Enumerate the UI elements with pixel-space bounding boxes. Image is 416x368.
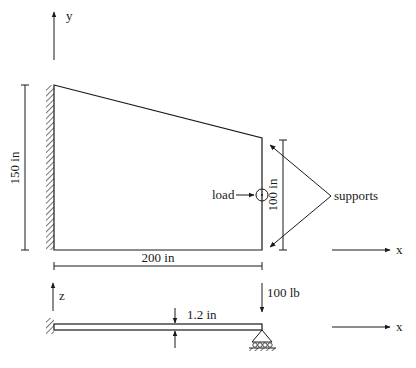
tapered-plate: [54, 85, 262, 250]
height-dimension: 150 in: [7, 85, 29, 250]
plate-diagram: y 150 in 200 in 100 in load supports: [0, 0, 416, 368]
supports-label: supports: [334, 188, 378, 203]
thickness-dimension: 1.2 in: [175, 307, 217, 348]
z-axis: z: [53, 283, 65, 311]
roller-support-icon: [249, 330, 276, 351]
load-point: load: [212, 187, 268, 202]
right-edge-dimension-label: 100 in: [265, 178, 280, 211]
x-axis-top: x: [332, 242, 403, 257]
width-dimension: 200 in: [54, 250, 262, 270]
force-arrow: 100 lb: [262, 283, 300, 312]
x-axis-bottom: x: [332, 319, 403, 334]
x-axis-bottom-label: x: [396, 319, 403, 334]
z-axis-label: z: [59, 288, 65, 303]
force-label: 100 lb: [267, 285, 300, 300]
thickness-label: 1.2 in: [187, 307, 217, 322]
supports-callout: supports: [270, 145, 378, 247]
x-axis-top-label: x: [396, 242, 403, 257]
height-dimension-label: 150 in: [7, 151, 22, 184]
load-label: load: [212, 187, 235, 202]
plate-side-beam: [54, 324, 262, 330]
y-axis: y: [54, 8, 73, 60]
fixed-wall-hatch: [46, 85, 54, 250]
width-dimension-label: 200 in: [142, 250, 175, 265]
y-axis-label: y: [66, 8, 73, 23]
side-wall-hatch: [46, 318, 54, 334]
